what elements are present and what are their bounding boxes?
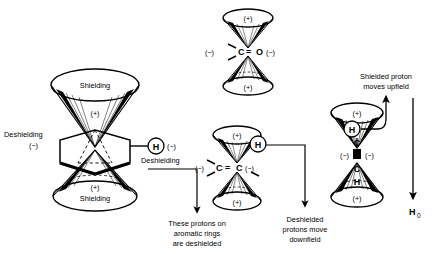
alkyne-caption-line1: Shielded proton: [360, 72, 412, 81]
alkyne-proton-group: H: [344, 121, 360, 137]
alkyne-atom-bottom-c: C: [354, 164, 361, 174]
benzene-left-deshielding-sign: (−): [29, 141, 38, 150]
alkyne-proton-label: H: [349, 125, 356, 135]
alkene-atom-right: C: [236, 163, 243, 173]
field-axis-label: H: [409, 207, 416, 217]
carbonyl-right-sign: (−): [266, 48, 275, 57]
benzene-left-deshielding-label: Deshielding: [4, 130, 43, 139]
benzene-bottom-cone-label: Shielding: [80, 194, 110, 203]
carbonyl-atom-left: C: [238, 47, 245, 57]
alkene-bond: =: [225, 163, 230, 173]
benzene-bottom-cone-sign: (+): [91, 183, 100, 192]
alkene-caption-line2: protons move: [283, 225, 328, 234]
carbonyl-top-sign: (+): [244, 14, 253, 23]
benzene-top-cone-label: Shielding: [80, 81, 110, 90]
carbonyl-bottom-sign: (+): [244, 83, 253, 92]
alkyne-caption-line2: moves upfield: [363, 82, 409, 91]
alkene-top-sign: (+): [233, 131, 242, 140]
alkene-bottom-sign: (+): [233, 198, 242, 207]
alkyne-atom-top-c: C: [354, 138, 361, 148]
alkene-proton-label: H: [255, 140, 262, 150]
anisotropy-diagram: Shielding (+) (+) Shielding: [0, 0, 432, 254]
alkyne-triple-bond: [353, 149, 361, 159]
alkyne-left-sign: (−): [340, 151, 349, 160]
alkene-caption-line3: downfield: [289, 235, 320, 244]
alkyne-top-sign: (+): [353, 109, 362, 118]
benzene-right-deshielding-label: Deshielding: [141, 156, 180, 165]
carbonyl-atom-right: O: [256, 47, 263, 57]
benzene-caption-line3: are deshielded: [173, 239, 222, 248]
alkene-proton-group: H: [250, 136, 266, 152]
benzene-caption-line2: aromatic rings: [174, 229, 221, 238]
alkene-caption-line1: Deshielded: [287, 215, 324, 224]
alkyne-right-sign: (−): [365, 151, 374, 160]
benzene-top-cone-sign: (+): [91, 109, 100, 118]
alkyne-atom-bottom-h: H: [354, 177, 361, 187]
benzene-ring: [60, 130, 130, 174]
carbonyl-left-sign: (−): [205, 48, 214, 57]
benzene-right-sign: (−): [167, 142, 176, 151]
alkyne-bottom-sign: (+): [353, 194, 362, 203]
benzene-caption-line1: These protons on: [168, 219, 226, 228]
carbonyl-bond: =: [246, 47, 251, 57]
alkene-atom-left: C: [216, 163, 223, 173]
benzene-proton-label: H: [153, 142, 160, 152]
alkene-left-sign: (−): [195, 164, 204, 173]
field-axis-subscript: 0: [417, 212, 421, 219]
alkene-right-sign: (−): [245, 164, 254, 173]
canvas-background: [0, 0, 432, 254]
